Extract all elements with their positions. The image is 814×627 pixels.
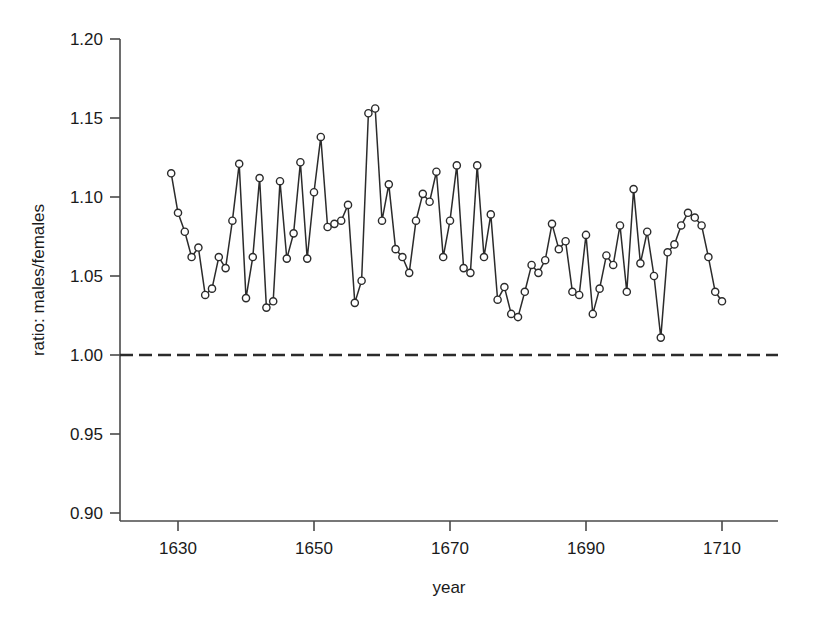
- data-point: 1666: 1.102: [419, 190, 426, 197]
- data-point: 1640: 1.036: [242, 295, 249, 302]
- data-point: 1702: 1.065: [664, 249, 671, 256]
- axis-titles: yearratio: males/females: [29, 204, 466, 597]
- y-tick-label: 0.90: [70, 504, 103, 523]
- data-point: 1695: 1.082: [616, 222, 623, 229]
- data-point: 1663: 1.062: [399, 253, 406, 260]
- data-point: 1664: 1.052: [406, 269, 413, 276]
- data-point: 1648: 1.122: [297, 159, 304, 166]
- data-point: 1635: 1.042: [208, 285, 215, 292]
- data-point: 1710: 1.034: [718, 298, 725, 305]
- data-point: 1654: 1.085: [338, 217, 345, 224]
- data-point: 1683: 1.052: [535, 269, 542, 276]
- y-tick-label: 1.15: [70, 109, 103, 128]
- data-point: 1652: 1.081: [324, 223, 331, 230]
- data-point: 1703: 1.07: [671, 241, 678, 248]
- x-tick-label: 1630: [159, 539, 197, 558]
- data-point: 1665: 1.085: [412, 217, 419, 224]
- data-point: 1675: 1.062: [480, 253, 487, 260]
- x-tick-label: 1690: [567, 539, 605, 558]
- data-point: 1672: 1.055: [460, 265, 467, 272]
- data-point: 1690: 1.076: [582, 231, 589, 238]
- data-point: 1647: 1.077: [290, 230, 297, 237]
- data-point: 1707: 1.082: [698, 222, 705, 229]
- y-tick-label: 1.00: [70, 346, 103, 365]
- data-point: 1688: 1.04: [569, 288, 576, 295]
- data-point: 1698: 1.058: [637, 260, 644, 267]
- data-point: 1696: 1.04: [623, 288, 630, 295]
- data-point: 1701: 1.011: [657, 334, 664, 341]
- y-tick-label: 1.20: [70, 30, 103, 49]
- chart-canvas: 0.900.951.001.051.101.151.20 16301650167…: [0, 0, 814, 627]
- data-point: 1630: 1.09: [174, 209, 181, 216]
- data-point: 1686: 1.067: [555, 246, 562, 253]
- data-point: 1656: 1.033: [351, 299, 358, 306]
- data-point: 1634: 1.038: [202, 291, 209, 298]
- data-point: 1670: 1.085: [446, 217, 453, 224]
- data-point: 1657: 1.047: [358, 277, 365, 284]
- data-point: 1649: 1.061: [304, 255, 311, 262]
- data-point: 1629: 1.115: [168, 170, 175, 177]
- data-point: 1706: 1.087: [691, 214, 698, 221]
- data-point: 1685: 1.083: [548, 220, 555, 227]
- data-point: 1681: 1.04: [521, 288, 528, 295]
- data-point: 1639: 1.121: [236, 160, 243, 167]
- data-point: 1660: 1.085: [378, 217, 385, 224]
- x-axis-title: year: [432, 578, 465, 597]
- data-point: 1691: 1.026: [589, 310, 596, 317]
- data-point: 1636: 1.062: [215, 253, 222, 260]
- data-point: 1655: 1.095: [344, 201, 351, 208]
- data-point: 1632: 1.062: [188, 253, 195, 260]
- data-point: 1680: 1.024: [514, 313, 521, 320]
- data-point: 1645: 1.11: [276, 178, 283, 185]
- data-point: 1631: 1.078: [181, 228, 188, 235]
- data-point: 1651: 1.138: [317, 133, 324, 140]
- x-axis: 16301650167016901710: [120, 521, 778, 558]
- y-axis: 0.900.951.001.051.101.151.20: [70, 30, 120, 523]
- data-point: 1684: 1.06: [542, 257, 549, 264]
- data-point: 1693: 1.063: [603, 252, 610, 259]
- y-tick-label: 0.95: [70, 425, 103, 444]
- data-point: 1661: 1.108: [385, 181, 392, 188]
- data-point: 1668: 1.116: [433, 168, 440, 175]
- data-point: 1659: 1.156: [372, 105, 379, 112]
- data-point: 1704: 1.082: [678, 222, 685, 229]
- data-point: 1650: 1.103: [310, 189, 317, 196]
- data-point: 1674: 1.12: [474, 162, 481, 169]
- data-point: 1709: 1.04: [712, 288, 719, 295]
- data-point: 1697: 1.105: [630, 186, 637, 193]
- x-tick-label: 1710: [703, 539, 741, 558]
- data-point: 1643: 1.03: [263, 304, 270, 311]
- data-point: 1637: 1.055: [222, 265, 229, 272]
- data-point: 1689: 1.038: [576, 291, 583, 298]
- data-point: 1692: 1.042: [596, 285, 603, 292]
- data-point: 1662: 1.067: [392, 246, 399, 253]
- y-axis-title: ratio: males/females: [29, 204, 48, 356]
- data-point: 1642: 1.112: [256, 174, 263, 181]
- y-tick-label: 1.10: [70, 188, 103, 207]
- data-point: 1677: 1.035: [494, 296, 501, 303]
- data-point: 1671: 1.12: [453, 162, 460, 169]
- data-point: 1669: 1.062: [440, 253, 447, 260]
- data-point: 1694: 1.057: [610, 261, 617, 268]
- data-point: 1673: 1.052: [467, 269, 474, 276]
- data-point: 1633: 1.068: [195, 244, 202, 251]
- data-point: 1682: 1.057: [528, 261, 535, 268]
- data-point: 1646: 1.061: [283, 255, 290, 262]
- data-point: 1658: 1.153: [365, 110, 372, 117]
- chart-figure: 0.900.951.001.051.101.151.20 16301650167…: [0, 0, 814, 627]
- data-point-markers: 1629: 1.1151630: 1.091631: 1.0781632: 1.…: [168, 105, 726, 341]
- y-tick-label: 1.05: [70, 267, 103, 286]
- data-point: 1705: 1.09: [684, 209, 691, 216]
- data-point: 1638: 1.085: [229, 217, 236, 224]
- data-point: 1641: 1.062: [249, 253, 256, 260]
- data-point: 1699: 1.078: [644, 228, 651, 235]
- data-point: 1687: 1.072: [562, 238, 569, 245]
- x-tick-label: 1670: [431, 539, 469, 558]
- data-point: 1644: 1.034: [270, 298, 277, 305]
- data-point: 1667: 1.097: [426, 198, 433, 205]
- data-point: 1678: 1.043: [501, 283, 508, 290]
- x-tick-label: 1650: [295, 539, 333, 558]
- data-point: 1676: 1.089: [487, 211, 494, 218]
- data-point: 1708: 1.062: [705, 253, 712, 260]
- data-point: 1679: 1.026: [508, 310, 515, 317]
